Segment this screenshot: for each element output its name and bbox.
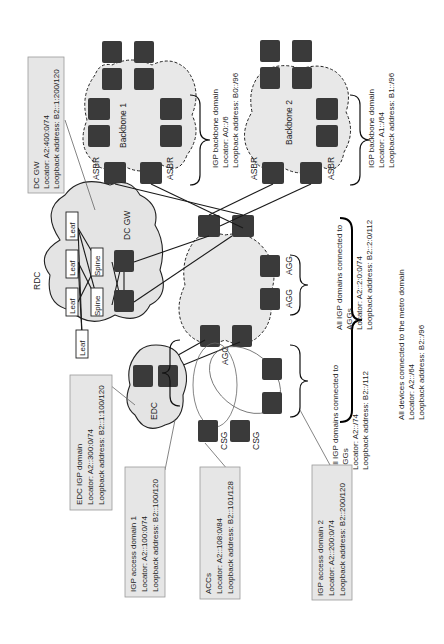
dcgw-router: [114, 250, 134, 272]
callout-edc-domain: EDC IGP domain Locator: A2::300:0/74 Loo…: [70, 375, 112, 510]
svg-text:Loopback address: B0::/96: Loopback address: B0::/96: [231, 72, 240, 168]
leaf-label: Leaf: [68, 298, 77, 314]
agg-router: [260, 288, 280, 310]
agg-router: [260, 255, 280, 277]
svg-text:DC GW: DC GW: [32, 161, 41, 189]
svg-text:All IGP domains connected to: All IGP domains connected to: [335, 224, 344, 330]
asbr-router: [104, 162, 126, 184]
svg-text:ACCs: ACCs: [204, 573, 213, 594]
srv6-network-diagram: Backbone 1 ASBR ASBR Backbone 2 ASBR ASB…: [0, 0, 444, 644]
svg-text:Locator: A2::/74: Locator: A2::/74: [351, 413, 360, 470]
callout-access1: IGP access domain 1 Locator: A2::100:0/7…: [125, 467, 165, 597]
svg-text:Loopback address: B2::200/120: Loopback address: B2::200/120: [338, 482, 347, 596]
backbone1-label: Backbone 1: [118, 103, 128, 148]
callout-metro: All devices connected to the metro domai…: [397, 269, 426, 420]
csg-label: CSG: [251, 432, 261, 450]
svg-text:AGGs: AGGs: [345, 308, 354, 330]
svg-text:IGP backbone domain: IGP backbone domain: [367, 89, 376, 168]
svg-text:Loopback address: B2::1:200/12: Loopback address: B2::1:200/120: [52, 69, 61, 189]
asbr-label: ASBR: [91, 157, 101, 180]
agg-label: AGG: [284, 256, 294, 275]
svg-text:All devices connected to the m: All devices connected to the metro domai…: [397, 269, 406, 420]
agg-label: AGG: [284, 289, 294, 308]
svg-text:Locator: A2::300:0/74: Locator: A2::300:0/74: [86, 428, 95, 505]
backbone2-label: Backbone 2: [284, 100, 294, 145]
svg-text:Locator: A2::/64: Locator: A2::/64: [407, 363, 416, 420]
svg-text:Loopback address: B2::100/120: Loopback address: B2::100/120: [151, 478, 160, 592]
svg-text:IGP access domain 1: IGP access domain 1: [129, 516, 138, 592]
callout-accs: ACCs Locator: A2::108:0/84 Loopback addr…: [200, 467, 240, 599]
asbr-label: ASBR: [326, 157, 336, 180]
agg-router: [198, 215, 220, 237]
svg-text:Loopback address: B2::/112: Loopback address: B2::/112: [361, 370, 370, 470]
callout-backbone1-domain: IGP backbone domain Locator: A0::/6 Loop…: [211, 72, 240, 168]
csg-router: [262, 392, 282, 414]
svg-text:Locator: A2::100:0/74: Locator: A2::100:0/74: [140, 515, 149, 592]
edc-label: EDC: [149, 402, 159, 420]
leaf-label: Leaf: [68, 260, 77, 276]
svg-text:Loopback address: B1::/96: Loopback address: B1::/96: [387, 72, 396, 168]
access-rings: CSG CSG: [193, 333, 294, 450]
callout-backbone2-domain: IGP backbone domain Locator: A1::/64 Loo…: [367, 72, 396, 168]
edc-router: [158, 365, 178, 387]
dcgw-label: DC GW: [122, 211, 132, 240]
csg-router: [230, 420, 250, 442]
edc-router: [133, 365, 153, 387]
callout-access2: IGP access domain 2 Locator: A2::200:0/7…: [312, 465, 352, 600]
svg-text:Loopback address: B2::2:0/112: Loopback address: B2::2:0/112: [365, 219, 374, 330]
edc-cloud: EDC: [127, 345, 187, 428]
callout-agg-domains-bottom: All IGP domains connected to AGGs Locato…: [331, 364, 370, 470]
svg-text:Locator: A2::200:0/74: Locator: A2::200:0/74: [327, 519, 336, 596]
svg-text:IGP backbone domain: IGP backbone domain: [211, 89, 220, 168]
svg-text:EDC IGP domain: EDC IGP domain: [75, 444, 84, 505]
dcgw-router: [114, 290, 134, 312]
svg-text:Locator: A2::108:0/84: Locator: A2::108:0/84: [215, 517, 224, 594]
spine-label: Spine: [93, 295, 102, 316]
svg-text:IGP access domain 2: IGP access domain 2: [316, 520, 325, 596]
leaf-label: Leaf: [68, 222, 77, 238]
svg-text:Locator: A0::/6: Locator: A0::/6: [221, 116, 230, 168]
callout-agg-domains-top: All IGP domains connected to AGGs Locato…: [335, 219, 374, 330]
csg-router: [198, 420, 218, 442]
spine-label: Spine: [93, 255, 102, 276]
asbr-label: ASBR: [249, 157, 259, 180]
svg-text:Loopback address: B2::101/128: Loopback address: B2::101/128: [226, 480, 235, 594]
metro-agg-cloud: AGG AGG AGG: [179, 215, 294, 365]
svg-text:Loopback address: B2::1:100/12: Loopback address: B2::1:100/120: [97, 385, 106, 505]
asbr-router: [140, 162, 162, 184]
csg-label: CSG: [219, 432, 229, 450]
svg-text:Locator: A1::/64: Locator: A1::/64: [377, 111, 386, 168]
svg-text:All IGP domains connected to: All IGP domains connected to: [331, 364, 340, 470]
callout-dcgw: DC GW Locator: A2:400:0/74 Loopback addr…: [28, 57, 64, 193]
asbr-label: ASBR: [165, 157, 175, 180]
svg-text:Locator: A2::2:0:0/74: Locator: A2::2:0:0/74: [355, 256, 364, 330]
leaf-label: Leaf: [78, 340, 87, 356]
agg-router: [232, 215, 254, 237]
rdc-label: RDC: [32, 272, 42, 290]
svg-text:Locator: A2:400:0/74: Locator: A2:400:0/74: [42, 115, 51, 189]
csg-router: [262, 358, 282, 380]
svg-text:Loopback address: B2::/96: Loopback address: B2::/96: [417, 324, 426, 420]
